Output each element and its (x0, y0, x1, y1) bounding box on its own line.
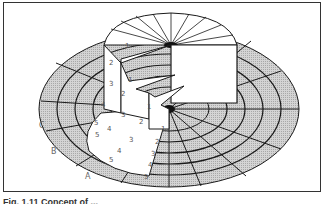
label-mid-4: 4 (107, 125, 112, 133)
label-top-5: 5 (94, 119, 98, 127)
disk-stack-diagram: 2 3 4 5 1 1 2 3 4 5 1 2 3 4 5 1 2 3 4 5 … (4, 3, 321, 192)
label-top-3: 3 (109, 80, 113, 88)
label-inner-4: 4 (117, 147, 122, 155)
label-inner-5: 5 (109, 156, 113, 164)
label-inner-1: 1 (147, 103, 151, 111)
label-front-5: 5 (144, 173, 148, 181)
ring-label-b: B (51, 147, 57, 156)
label-top-4: 4 (101, 101, 106, 109)
label-mid-2: 2 (121, 90, 125, 98)
label-front-4: 4 (148, 161, 153, 169)
label-mid-1: 1 (128, 76, 132, 84)
figure-caption: Fig. 1.11 Concept of ... (3, 197, 98, 204)
label-front-3: 3 (151, 150, 155, 158)
label-inner-3: 3 (129, 136, 133, 144)
label-top-2: 2 (109, 59, 113, 67)
ring-label-c: C (39, 121, 45, 130)
label-top-1: 1 (125, 42, 129, 50)
label-mid-5: 5 (95, 131, 99, 139)
label-mid-3: 3 (121, 111, 125, 119)
label-front-1: 1 (161, 125, 165, 133)
label-front-2: 2 (155, 138, 159, 146)
figure-frame: 2 3 4 5 1 1 2 3 4 5 1 2 3 4 5 1 2 3 4 5 … (3, 2, 321, 192)
ring-label-a: A (85, 172, 91, 181)
label-inner-2: 2 (139, 118, 143, 126)
